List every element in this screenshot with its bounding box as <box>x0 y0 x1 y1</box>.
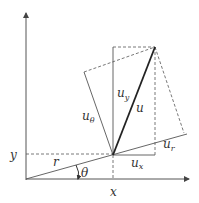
y-label: y <box>9 148 17 162</box>
polar-box-top <box>84 47 155 72</box>
theta-arc <box>76 165 79 179</box>
u-r-label: ur <box>163 137 176 153</box>
x-label: x <box>110 185 117 199</box>
u-y-label: uy <box>117 86 130 102</box>
r-label: r <box>53 155 60 169</box>
u-vector <box>113 47 155 155</box>
velocity-diagram: y x r θ u uy uθ ux ur <box>0 0 199 203</box>
polar-box-right <box>155 47 184 133</box>
diagram-canvas: y x r θ u uy uθ ux ur <box>0 0 199 203</box>
theta-label: θ <box>81 166 89 180</box>
u-theta-label: uθ <box>82 109 95 125</box>
u-x-label: ux <box>131 156 144 171</box>
u-label: u <box>136 101 144 115</box>
